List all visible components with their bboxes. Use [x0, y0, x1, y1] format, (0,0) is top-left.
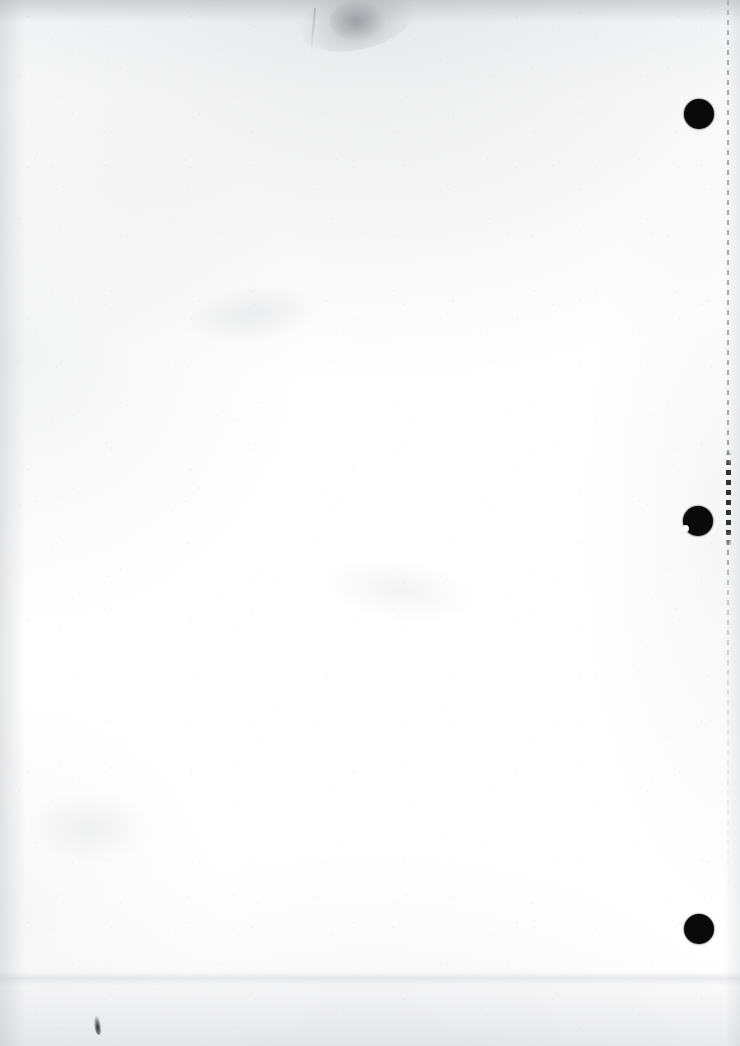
- edge-shade-top: [0, 0, 740, 22]
- scanned-page: [0, 0, 740, 1046]
- punch-hole-bottom: [684, 914, 714, 944]
- punch-hole-middle: [683, 506, 713, 536]
- edge-shade-left: [0, 0, 26, 1046]
- perforation-guide-line-emphasis: [726, 450, 731, 548]
- punch-hole-top: [684, 99, 714, 129]
- page-content-area: [26, 26, 676, 986]
